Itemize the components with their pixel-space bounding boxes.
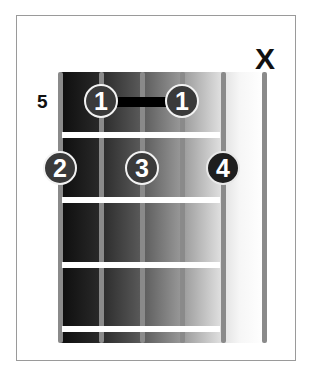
finger-dot-1a: 1	[84, 84, 118, 118]
string-5	[221, 72, 226, 343]
fret-3	[62, 262, 220, 268]
finger-dot-4: 4	[206, 151, 240, 185]
string-6	[262, 72, 267, 343]
fret-4	[62, 326, 220, 332]
string-1	[58, 72, 63, 343]
muted-string-icon: X	[255, 44, 275, 74]
barre-bar	[117, 97, 167, 107]
fret-1	[62, 132, 220, 138]
fret-2	[62, 197, 220, 203]
finger-dot-3: 3	[125, 151, 159, 185]
string-3	[140, 72, 145, 343]
finger-dot-2: 2	[43, 151, 77, 185]
starting-fret-label: 5	[37, 91, 48, 113]
finger-dot-1b: 1	[165, 84, 199, 118]
